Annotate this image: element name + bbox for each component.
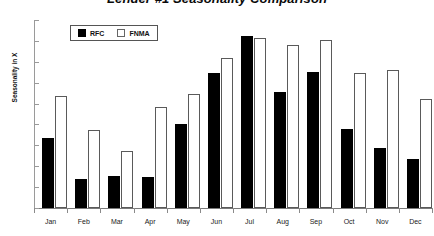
bar-group <box>372 20 405 208</box>
x-tick-mark <box>134 208 135 213</box>
x-tick-mark <box>200 208 201 213</box>
bar-rfc <box>274 92 286 208</box>
bar-rfc <box>142 177 154 208</box>
legend-item-rfc: RFC <box>78 29 104 37</box>
bar-rfc <box>108 176 120 208</box>
x-tick-mark <box>333 208 334 213</box>
bar-group <box>305 20 338 208</box>
bar-group <box>405 20 434 208</box>
bar-group <box>272 20 305 208</box>
bar-rfc <box>307 72 319 208</box>
x-tick-mark <box>399 208 400 213</box>
bar-fnma <box>88 130 100 208</box>
bar-fnma <box>121 151 133 208</box>
bar-group <box>73 20 106 208</box>
bar-fnma <box>155 107 167 208</box>
bar-group <box>206 20 239 208</box>
bar-fnma <box>354 73 366 208</box>
bar-group <box>40 20 73 208</box>
x-tick-mark <box>100 208 101 213</box>
bar-rfc <box>42 138 54 208</box>
y-axis-label: Seasonality in X <box>11 28 18 128</box>
bar-group <box>140 20 173 208</box>
bar-group <box>239 20 272 208</box>
x-tick-mark <box>34 208 35 213</box>
bar-rfc <box>75 179 87 208</box>
bar-fnma <box>221 58 233 208</box>
bar-fnma <box>320 40 332 208</box>
bar-fnma <box>55 96 67 208</box>
bar-group <box>339 20 372 208</box>
bar-group <box>173 20 206 208</box>
bar-fnma <box>420 99 432 208</box>
legend-label-fnma: FNMA <box>129 30 149 37</box>
x-tick-mark <box>299 208 300 213</box>
bar-rfc <box>241 36 253 208</box>
bar-fnma <box>387 70 399 208</box>
bar-fnma <box>287 45 299 208</box>
chart-title: Lender #1 Seasonality Comparison <box>0 0 434 6</box>
legend-item-fnma: FNMA <box>117 29 149 37</box>
bar-rfc <box>374 148 386 208</box>
x-tick-mark <box>67 208 68 213</box>
bar-rfc <box>175 124 187 208</box>
legend-label-rfc: RFC <box>90 30 104 37</box>
x-tick-mark <box>266 208 267 213</box>
chart-container: Lender #1 Seasonality Comparison Seasona… <box>0 0 434 236</box>
bar-rfc <box>407 159 419 208</box>
x-tick-label: Dec <box>392 218 434 225</box>
x-tick-mark <box>167 208 168 213</box>
chart-legend: RFC FNMA <box>70 25 158 41</box>
bar-rfc <box>341 129 353 208</box>
bar-group <box>106 20 139 208</box>
x-tick-mark <box>233 208 234 213</box>
legend-swatch-rfc <box>78 29 86 37</box>
x-tick-mark <box>432 208 433 213</box>
legend-swatch-fnma <box>117 29 125 37</box>
bar-fnma <box>188 94 200 208</box>
plot-area <box>34 20 432 208</box>
x-tick-mark <box>366 208 367 213</box>
bar-fnma <box>254 38 266 208</box>
bar-rfc <box>208 73 220 208</box>
